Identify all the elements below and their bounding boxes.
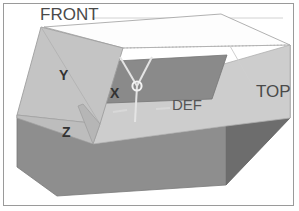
box-diagram-svg — [0, 0, 299, 211]
label-axis-x: X — [110, 86, 119, 100]
label-front: FRONT — [40, 6, 99, 23]
axis-tick-right — [156, 108, 170, 109]
figure-viewport: FRONT TOP Y X Z DEF — [0, 0, 299, 211]
label-top: TOP — [256, 83, 291, 100]
label-def: DEF — [172, 97, 202, 112]
label-axis-z: Z — [62, 125, 71, 139]
label-axis-y: Y — [59, 68, 68, 82]
